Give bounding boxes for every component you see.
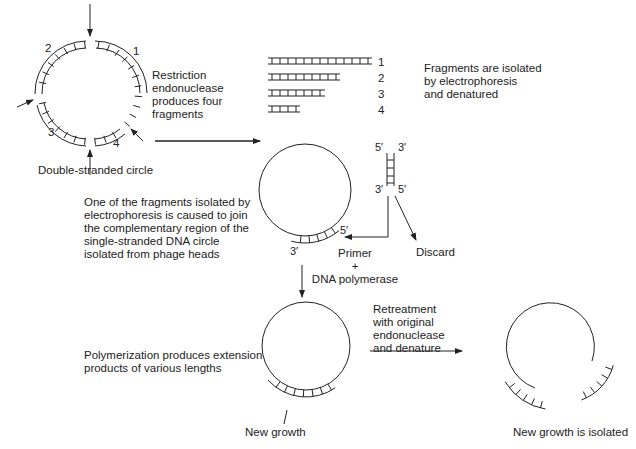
circle-fragment-label-2: 2 <box>45 42 51 54</box>
fragment-list-label-4: 4 <box>378 104 384 116</box>
single-stranded-circle <box>259 144 351 236</box>
new-growth-isolated-label: New growth is isolated <box>513 426 628 439</box>
final-circle <box>506 303 594 388</box>
end-3-top-right: 3′ <box>398 141 406 153</box>
fragment-list-label-3: 3 <box>378 88 384 100</box>
cut-arrow-right <box>131 129 143 141</box>
new-growth-on-circle <box>268 380 335 397</box>
fragment-list-label-2: 2 <box>378 72 384 84</box>
polymerization-label: Polymerization produces extension produc… <box>84 349 262 375</box>
cut-arrow-left <box>17 100 33 107</box>
isolated-growth <box>505 365 613 409</box>
fragment-list-label-1: 1 <box>378 56 384 68</box>
circle-fragment-label-4: 4 <box>113 137 119 149</box>
electrophoresis-label: Fragments are isolated by electrophoresi… <box>424 62 542 101</box>
circle-fragment-label-3: 3 <box>48 126 54 138</box>
primer-3-end: 3′ <box>290 245 298 257</box>
discard-arrow <box>395 196 416 240</box>
fragment-ladders <box>268 58 372 112</box>
primer-5-end: 5′ <box>340 224 348 236</box>
double-stranded-label: Double-stranded circle <box>38 164 153 177</box>
primer-arrow <box>345 196 388 237</box>
denatured-fragment <box>387 153 394 186</box>
new-growth-pointer <box>284 410 287 424</box>
restriction-label: Restriction endonuclease produces four f… <box>152 69 224 121</box>
retreatment-label: Retreatment with original endonuclease a… <box>373 303 445 355</box>
end-5-bottom-right: 5′ <box>398 183 406 195</box>
circle-fragment-label-1: 1 <box>133 45 139 57</box>
end-3-bottom-left: 3′ <box>375 183 383 195</box>
end-5-top-left: 5′ <box>375 141 383 153</box>
join-label: One of the fragments isolated by electro… <box>84 196 250 261</box>
circle-rungs <box>39 41 142 144</box>
new-growth-label: New growth <box>245 426 306 439</box>
primer-polymerase-label: Primer + DNA polymerase <box>305 247 405 286</box>
extension-circle <box>262 302 350 390</box>
discard-label: Discard <box>416 246 455 259</box>
